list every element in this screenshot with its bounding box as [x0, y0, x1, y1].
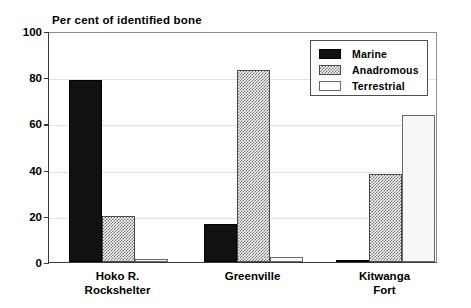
y-tick-mark: [44, 263, 49, 264]
x-axis-label-line: Fort: [359, 284, 410, 298]
y-tick-mark: [44, 78, 49, 79]
legend-item-terrestrial: Terrestrial: [319, 79, 405, 92]
y-tick-label: 80: [29, 72, 42, 84]
y-tick-mark: [44, 124, 49, 125]
bar-chart-figure: Per cent of identified bone 020406080100…: [0, 0, 471, 308]
y-tick-label: 0: [36, 257, 42, 269]
y-tick-label: 100: [23, 26, 42, 38]
bar-anadromous: [369, 174, 402, 262]
legend-item-anadromous: Anadromous: [319, 63, 419, 76]
legend-label: Anadromous: [352, 64, 419, 76]
legend-swatch-icon: [319, 81, 341, 91]
x-axis-label-line: Rockshelter: [85, 284, 151, 298]
bar-terrestrial: [270, 257, 303, 262]
y-tick-label: 20: [29, 211, 42, 223]
legend-swatch-icon: [319, 49, 341, 59]
bar-marine: [204, 224, 237, 262]
bar-anadromous: [102, 216, 135, 262]
legend-label: Marine: [352, 48, 387, 60]
chart-legend: MarineAnadromousTerrestrial: [310, 40, 428, 96]
x-axis-label-line: Greenville: [225, 270, 281, 284]
y-axis-tick-labels: 020406080100: [0, 32, 42, 263]
x-axis-label: KitwangaFort: [359, 270, 410, 297]
x-axis-label-line: Kitwanga: [359, 270, 410, 284]
chart-title: Per cent of identified bone: [52, 14, 202, 26]
legend-label: Terrestrial: [352, 80, 405, 92]
bar-terrestrial: [135, 259, 168, 262]
y-tick-label: 40: [29, 165, 42, 177]
bar-terrestrial: [402, 115, 435, 262]
x-axis-label-line: Hoko R.: [85, 270, 151, 284]
legend-swatch-icon: [319, 65, 341, 75]
y-tick-mark: [44, 217, 49, 218]
y-tick-mark: [44, 32, 49, 33]
bar-marine: [336, 260, 369, 262]
bar-anadromous: [237, 70, 270, 262]
legend-item-marine: Marine: [319, 47, 387, 60]
x-axis-label: Hoko R.Rockshelter: [85, 270, 151, 297]
y-tick-label: 60: [29, 118, 42, 130]
y-tick-mark: [44, 171, 49, 172]
x-axis-label: Greenville: [225, 270, 281, 284]
bar-marine: [69, 80, 102, 262]
